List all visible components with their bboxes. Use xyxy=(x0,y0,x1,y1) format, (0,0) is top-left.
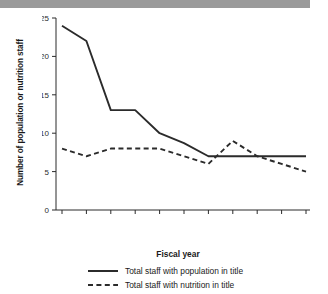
series-line-population xyxy=(62,26,306,157)
y-tick-label: 20 xyxy=(42,52,50,61)
plot-area: 0510152025 19971998199920002001200220032… xyxy=(42,14,314,216)
line-chart-svg: 0510152025 19971998199920002001200220032… xyxy=(42,14,314,216)
legend-item-population: Total staff with population in title xyxy=(88,264,318,278)
y-tick-label: 0 xyxy=(45,206,50,215)
x-axis-ticks: 1997199819992000200120022003200420052006… xyxy=(53,210,314,216)
legend-swatch-dashed-icon xyxy=(88,280,118,290)
chart-figure: Number of population or nutrition staff … xyxy=(0,8,328,294)
x-axis-title: Fiscal year xyxy=(42,249,314,259)
y-tick-label: 5 xyxy=(45,168,50,177)
legend-label-nutrition: Total staff with nutrition in title xyxy=(125,280,234,290)
y-tick-label: 10 xyxy=(42,129,50,138)
y-tick-label: 15 xyxy=(42,91,50,100)
chart-legend: Total staff with population in title Tot… xyxy=(88,264,318,292)
legend-label-population: Total staff with population in title xyxy=(125,266,243,276)
y-tick-label: 25 xyxy=(42,14,50,23)
y-axis-ticks: 0510152025 xyxy=(42,14,56,215)
top-gray-bar xyxy=(0,0,310,8)
y-axis-title: Number of population or nutrition staff xyxy=(16,27,25,199)
legend-swatch-solid-icon xyxy=(88,266,118,276)
legend-item-nutrition: Total staff with nutrition in title xyxy=(88,278,318,292)
